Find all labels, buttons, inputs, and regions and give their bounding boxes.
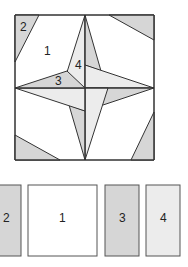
piece-4-label: 4 (160, 211, 167, 225)
piece-3-label: 3 (119, 211, 126, 225)
block-label-2: 2 (20, 20, 27, 34)
pieces-row (0, 185, 180, 256)
piece-2-label: 2 (3, 211, 10, 225)
block-label-4: 4 (75, 58, 82, 72)
quilt-block (15, 15, 154, 160)
piece-1-label: 1 (59, 211, 66, 225)
block-label-3: 3 (55, 74, 62, 88)
quilt-block-diagram: 2 1 3 4 2 1 3 4 (0, 0, 188, 267)
block-label-1: 1 (44, 44, 51, 58)
